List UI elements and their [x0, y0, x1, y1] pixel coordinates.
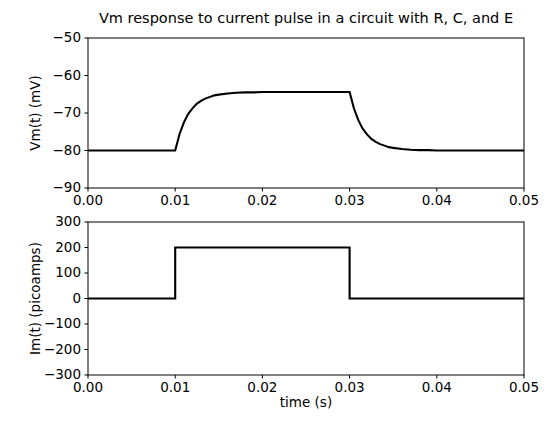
im-plot-ylabel: Im(t) (picoamps) [27, 242, 43, 355]
vm-plot-xtick-label: 0.00 [73, 192, 103, 208]
im-plot-ytick-label: 100 [55, 264, 81, 280]
figure-title: Vm response to current pulse in a circui… [99, 10, 513, 26]
vm-plot-ytick-label: −80 [53, 142, 82, 158]
vm-plot-xtick-label: 0.04 [422, 192, 452, 208]
im-plot-xtick-label: 0.00 [73, 379, 103, 395]
vm-response-subplot: −50−60−70−80−900.000.010.020.030.040.05V… [27, 29, 539, 208]
vm-plot-frame [88, 38, 524, 188]
im-current-subplot: 3002001000−100−200−3000.000.010.020.030.… [27, 213, 539, 410]
im-plot-xtick-label: 0.04 [422, 379, 452, 395]
matplotlib-figure: Vm response to current pulse in a circui… [0, 0, 550, 428]
vm-plot-ytick-label: −60 [53, 67, 82, 83]
im-plot-ytick-label: 0 [72, 290, 81, 306]
im-plot-xtick-label: 0.02 [247, 379, 277, 395]
im-plot-xtick-label: 0.05 [509, 379, 539, 395]
vm-plot-xtick-label: 0.05 [509, 192, 539, 208]
vm-plot-ylabel: Vm(t) (mV) [27, 75, 43, 150]
im-plot-ytick-label: −100 [44, 315, 81, 331]
vm-plot-ytick-label: −50 [53, 29, 82, 45]
figure-canvas: Vm response to current pulse in a circui… [0, 0, 550, 428]
im-plot-ytick-label: 200 [55, 239, 81, 255]
im-plot-ytick-label: −200 [44, 341, 81, 357]
im-plot-xlabel: time (s) [280, 394, 332, 410]
im-plot-xtick-label: 0.03 [335, 379, 365, 395]
im-plot-xtick-label: 0.01 [160, 379, 190, 395]
vm-plot-xtick-label: 0.03 [335, 192, 365, 208]
vm-plot-xtick-label: 0.01 [160, 192, 190, 208]
vm-plot-ytick-label: −70 [53, 104, 82, 120]
vm-plot-trace [88, 92, 524, 151]
im-plot-trace [88, 248, 524, 299]
vm-plot-xtick-label: 0.02 [247, 192, 277, 208]
im-plot-ytick-label: 300 [55, 213, 81, 229]
